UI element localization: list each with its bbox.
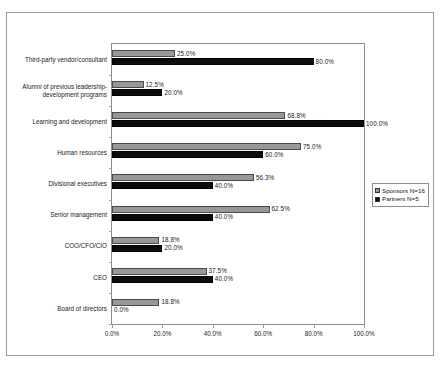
bar-value-label: 0.0% — [114, 306, 129, 313]
y-axis-category-label: Board of directors — [11, 305, 107, 313]
plot-area: Third-party vendor/consultant25.0%80.0%A… — [111, 43, 365, 325]
y-axis-category-label: Senior management — [11, 211, 107, 219]
bar-sponsors — [112, 50, 175, 57]
bar-value-label: 18.8% — [161, 236, 179, 243]
x-axis-tick — [263, 325, 264, 328]
x-axis-tick-label: 20.0% — [153, 330, 171, 337]
bar-row: Third-party vendor/consultant25.0%80.0% — [112, 44, 364, 75]
bar-partners — [112, 120, 364, 127]
bar-row: Human resources75.0%60.0% — [112, 137, 364, 168]
bar-value-label: 18.8% — [161, 298, 179, 305]
y-axis-category-label: Learning and development — [11, 118, 107, 126]
bar-row: COO/CFO/CIO18.8%20.0% — [112, 231, 364, 262]
bar-partners — [112, 58, 314, 65]
legend-item: Sponsors N=16 — [375, 187, 425, 195]
bar-value-label: 12.5% — [146, 81, 164, 88]
bar-partners — [112, 214, 213, 221]
bar-sponsors — [112, 112, 285, 119]
legend-item: Partners N=5 — [375, 195, 425, 203]
x-axis-tick-label: 80.0% — [305, 330, 323, 337]
x-axis-tick — [314, 325, 315, 328]
bar-value-label: 40.0% — [215, 213, 233, 220]
bar-row: Alumni of previous leadership- developme… — [112, 75, 364, 106]
bar-sponsors — [112, 268, 207, 275]
bar-value-label: 40.0% — [215, 275, 233, 282]
x-axis-tick-label: 40.0% — [204, 330, 222, 337]
bar-sponsors — [112, 81, 144, 88]
bar-sponsors — [112, 299, 159, 306]
bar-value-label: 75.0% — [303, 143, 321, 150]
y-axis-category-label: COO/CFO/CIO — [11, 242, 107, 250]
y-axis-category-label: CEO — [11, 274, 107, 282]
x-axis-tick — [213, 325, 214, 328]
legend-swatch-icon — [375, 188, 380, 193]
legend-swatch-icon — [375, 197, 380, 202]
x-axis-tick — [112, 325, 113, 328]
y-axis-category-label: Human resources — [11, 149, 107, 157]
x-axis-tick-label: 0.0% — [105, 330, 119, 337]
page-top-cropped-text — [0, 0, 442, 8]
bar-row: Board of directors18.8%0.0% — [112, 293, 364, 324]
x-axis-tick — [364, 325, 365, 328]
bar-value-label: 25.0% — [177, 50, 195, 57]
bar-sponsors — [112, 174, 254, 181]
bar-sponsors — [112, 206, 270, 213]
bar-row: CEO37.5%40.0% — [112, 262, 364, 293]
bar-value-label: 20.0% — [164, 244, 182, 251]
x-axis: 0.0%20.0%40.0%60.0%80.0%100.0% — [111, 325, 365, 345]
x-axis-tick-label: 60.0% — [254, 330, 272, 337]
bar-value-label: 37.5% — [209, 267, 227, 274]
y-axis-category-label: Divisional executives — [11, 180, 107, 188]
bar-value-label: 60.0% — [265, 151, 283, 158]
chart-figure: Third-party vendor/consultant25.0%80.0%A… — [6, 12, 434, 356]
bar-row: Learning and development68.8%100.0% — [112, 106, 364, 137]
x-axis-tick-label: 100.0% — [353, 330, 374, 337]
bar-value-label: 80.0% — [316, 58, 334, 65]
bar-row: Senior management62.5%40.0% — [112, 200, 364, 231]
bar-sponsors — [112, 237, 159, 244]
bar-rows: Third-party vendor/consultant25.0%80.0%A… — [112, 44, 364, 324]
legend-label: Sponsors N=16 — [382, 187, 425, 195]
bar-partners — [112, 245, 162, 252]
legend-label: Partners N=5 — [382, 195, 419, 203]
bar-value-label: 62.5% — [272, 205, 290, 212]
bar-partners — [112, 151, 263, 158]
bar-value-label: 56.3% — [256, 174, 274, 181]
bar-value-label: 40.0% — [215, 182, 233, 189]
y-axis-category-label: Third-party vendor/consultant — [11, 56, 107, 64]
bar-partners — [112, 182, 213, 189]
bar-sponsors — [112, 143, 301, 150]
bar-row: Divisional executives56.3%40.0% — [112, 168, 364, 199]
chart-legend: Sponsors N=16Partners N=5 — [372, 183, 429, 207]
bar-value-label: 100.0% — [366, 120, 388, 127]
bar-partners — [112, 276, 213, 283]
bar-value-label: 20.0% — [164, 89, 182, 96]
bar-value-label: 68.8% — [287, 112, 305, 119]
y-axis-category-label: Alumni of previous leadership- developme… — [11, 83, 107, 98]
bar-partners — [112, 89, 162, 96]
x-axis-tick — [162, 325, 163, 328]
